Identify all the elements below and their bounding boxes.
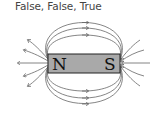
bar-magnet: N S	[48, 54, 120, 74]
north-pole-label: N	[52, 54, 67, 74]
south-pole-label: S	[104, 54, 116, 74]
bar-magnet-field-diagram: N S	[0, 0, 163, 120]
